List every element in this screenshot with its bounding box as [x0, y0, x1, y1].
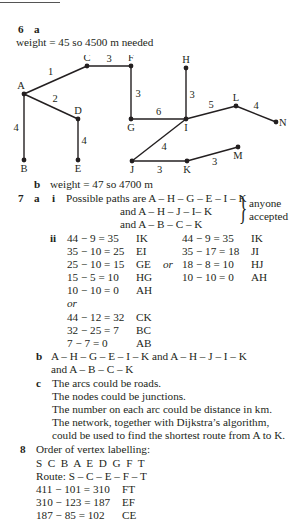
edge-weight-AD: 2 — [52, 93, 57, 104]
q7-paths-line2: and A – H – J – I– K — [120, 205, 212, 218]
arc-col2-row3: AH — [251, 271, 267, 284]
node-label-G: G — [127, 122, 135, 133]
arc-col1-row3: HG — [136, 271, 152, 284]
arc-col3-row0: CK — [136, 311, 152, 324]
q8-route: Route: S – C – E – F – T — [36, 470, 147, 483]
q7-c-line1: The nodes could be junctions. — [52, 390, 186, 403]
calc-col1-row0: 44 − 9 = 35 — [67, 232, 119, 245]
calc-col2-row3: 10 − 10 = 0 — [182, 271, 234, 284]
calc-col2-row2: 18 − 8 = 10 — [182, 258, 234, 271]
node-label-M: M — [233, 150, 243, 161]
edge-weight-CF: 3 — [106, 55, 111, 64]
node-C — [85, 64, 90, 69]
q8-heading: Order of vertex labelling: — [36, 443, 150, 456]
q6-number: 6 — [18, 23, 24, 36]
node-label-I: I — [184, 122, 188, 133]
q8-calc-row1: 310 − 123 = 187 — [36, 496, 110, 509]
edge-weight-FG: 3 — [135, 88, 140, 99]
calc-col1-row2: 25 − 10 = 15 — [67, 258, 124, 271]
node-label-L: L — [233, 92, 239, 103]
q7-sub-ii-label: ii — [50, 232, 56, 245]
node-N — [274, 120, 279, 125]
network-graph: 1324436354433ACFDBEGHILNJKM — [0, 55, 308, 175]
calc-col3-row0: 44 − 12 = 32 — [67, 311, 124, 324]
node-B — [22, 158, 27, 163]
calc-col1-row3: 15 − 5 = 10 — [67, 271, 119, 284]
q7-paths-line1: Possible paths are A – H – G – E – I – K — [66, 192, 247, 205]
q7-paths-line3: and A – B – C – K — [120, 218, 202, 231]
q7-c-line2: The number on each arc could be distance… — [52, 403, 272, 416]
q7-part-b-label: b — [36, 350, 42, 363]
edge-IJ — [132, 119, 186, 161]
calc-col2-row1: 35 − 17 = 18 — [182, 245, 239, 258]
q7-brace-note-1: anyone — [249, 197, 281, 210]
q7-c-line4: could be used to find the shortest route… — [52, 429, 285, 442]
node-G — [129, 117, 134, 122]
edge-weight-IJ: 4 — [161, 141, 167, 152]
brace-symbol: } — [239, 191, 247, 225]
node-label-N: N — [279, 117, 287, 128]
q7-sub-i-label: i — [52, 192, 55, 205]
node-J — [130, 159, 135, 164]
node-label-H: H — [182, 55, 190, 65]
calc-col1-row1: 35 − 10 = 25 — [67, 245, 124, 258]
arc-col3-row1: BC — [136, 324, 151, 337]
calc-col2-row0: 44 − 9 = 35 — [182, 232, 234, 245]
arc-col1-row1: EI — [136, 245, 147, 258]
edge-AC — [24, 66, 87, 94]
q8-calc-row0: 411 − 101 = 310 — [36, 483, 110, 496]
q8-number: 8 — [20, 443, 26, 456]
q6-part-b-label: b — [34, 178, 40, 191]
edge-weight-AB: 4 — [13, 122, 19, 133]
edge-weight-DE: 4 — [81, 135, 87, 146]
node-A — [22, 92, 27, 97]
edge-weight-KM: 3 — [212, 156, 217, 167]
edge-weight-GI: 6 — [156, 106, 161, 117]
q8-order: S C B A E D G F T — [36, 457, 145, 470]
arc-col3-row2: AB — [136, 337, 152, 350]
q7-c-line0: The arcs could be roads. — [52, 377, 161, 390]
q8-arc-row2: CE — [122, 509, 136, 522]
node-label-B: B — [20, 163, 27, 174]
node-F — [129, 64, 134, 69]
node-L — [234, 104, 239, 109]
node-label-J: J — [130, 164, 134, 175]
node-D — [76, 117, 81, 122]
calc-col3-row2: 7 − 7 = 0 — [67, 337, 108, 350]
edge-weight-LN: 4 — [253, 100, 259, 111]
arc-col2-row0: IK — [251, 232, 263, 245]
q7-brace-note-2: accepted — [249, 210, 288, 223]
q7-part-a-label: a — [34, 192, 40, 205]
node-E — [76, 158, 81, 163]
q8-arc-row0: FT — [122, 483, 135, 496]
q8-arc-row1: EF — [122, 496, 135, 509]
q7-number: 7 — [18, 192, 24, 205]
node-I — [184, 117, 189, 122]
node-label-A: A — [17, 80, 25, 91]
q7-b-line2: and A – B – C – K — [51, 363, 133, 376]
node-H — [184, 66, 189, 71]
calc-col3-row1: 32 − 25 = 7 — [67, 324, 119, 337]
q7-b-line1: A – H – G – E – I – K and A – H – J – I … — [51, 350, 247, 363]
node-M — [236, 145, 241, 150]
arc-col1-row2: GE — [136, 258, 151, 271]
or-label-middle: or — [163, 258, 173, 271]
node-label-D: D — [74, 105, 82, 116]
arc-col1-row0: IK — [136, 232, 148, 245]
node-K — [185, 159, 190, 164]
node-label-E: E — [75, 163, 81, 174]
node-label-C: C — [83, 55, 90, 63]
edge-weight-HI: 3 — [189, 89, 194, 100]
q6-a-text: weight = 45 so 4500 m needed — [16, 36, 153, 49]
q7-c-line3: The network, together with Dijkstra’s al… — [52, 416, 269, 429]
q7-part-c-label: c — [36, 377, 41, 390]
arc-col1-row4: AH — [136, 284, 152, 297]
edge-AD — [24, 94, 78, 119]
arc-col2-row2: HJ — [251, 258, 263, 271]
or-label-lower: or — [67, 297, 77, 310]
q8-calc-row2: 187 − 85 = 102 — [36, 509, 105, 522]
q6-part-a-label: a — [34, 23, 40, 36]
header-rule — [0, 2, 60, 3]
edge-weight-AC: 1 — [48, 66, 53, 77]
arc-col2-row1: JI — [251, 245, 259, 258]
